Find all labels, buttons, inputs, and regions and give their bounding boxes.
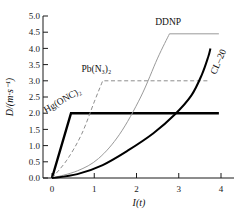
y-tick-label: 1.5 <box>29 125 41 135</box>
x-axis-title: I(t) <box>132 197 146 209</box>
y-tick-label: 5.0 <box>29 11 41 21</box>
y-tick-label: 1.0 <box>29 141 41 151</box>
x-tick-label: 0 <box>50 184 55 194</box>
chart-figure: 0.00.51.01.52.02.53.03.54.04.55.0 01234 … <box>0 0 239 216</box>
y-tick-label: 0.0 <box>29 173 41 183</box>
y-tick-label: 4.5 <box>29 27 41 37</box>
y-tick-label: 3.0 <box>29 76 41 86</box>
x-tick-label: 2 <box>134 184 139 194</box>
y-tick-label: 0.5 <box>29 157 41 167</box>
y-tick-label: 4.0 <box>29 44 41 54</box>
y-tick-label: 2.0 <box>29 108 41 118</box>
y-tick-label: 2.5 <box>29 92 41 102</box>
x-tick-label: 3 <box>177 184 182 194</box>
curve-label-pbn: Pb(N₃)₂ <box>81 64 111 75</box>
y-tick-label: 3.5 <box>29 60 41 70</box>
curve-label-ddnp: DDNP <box>155 17 181 27</box>
y-axis-tick-labels: 0.00.51.01.52.02.53.03.54.04.55.0 <box>29 11 41 183</box>
x-tick-label: 1 <box>92 184 97 194</box>
explosive-detonation-velocity-chart: 0.00.51.01.52.02.53.03.54.04.55.0 01234 … <box>0 0 239 216</box>
y-axis-title: D/(m·s⁻¹) <box>4 77 16 117</box>
x-tick-label: 4 <box>219 184 224 194</box>
